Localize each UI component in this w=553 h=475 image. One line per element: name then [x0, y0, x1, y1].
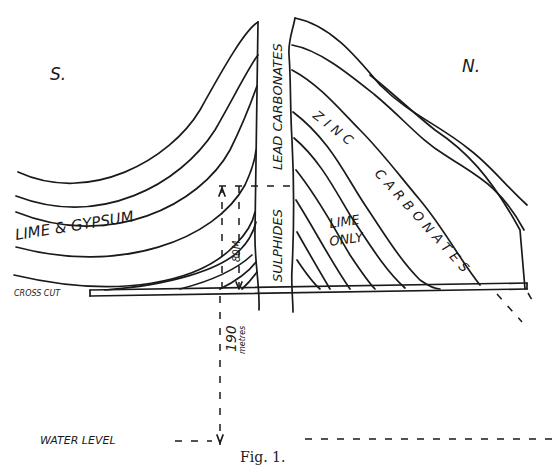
depth-unit-label: metres [238, 326, 247, 354]
right-strata-lines [292, 18, 527, 289]
depth-value-label: 190 [223, 325, 239, 352]
left-strata-lines [14, 22, 258, 290]
zinc-label: ZINC [309, 107, 360, 151]
geological-cross-section-figure: S. N. CROSS CUT [0, 0, 553, 475]
lime-gypsum-label: LIME & GYPSUM [14, 207, 135, 244]
height-dimension-label: 80M [231, 240, 242, 262]
continuation-dashes [497, 293, 535, 322]
south-label: S. [50, 64, 66, 84]
lime-only-label-line1: LIME [328, 212, 361, 231]
water-level-label: WATER LEVEL [40, 434, 116, 447]
carbonates-label: CARBONATES [372, 166, 476, 279]
sulphides-label: SULPHIDES [270, 209, 285, 282]
lime-only-label-line2: ONLY [328, 229, 365, 249]
lead-carbonates-label: LEAD CARBONATES [270, 43, 285, 170]
cross-cut-label: CROSS CUT [14, 289, 61, 298]
north-label: N. [462, 56, 480, 76]
water-level-line [175, 439, 553, 441]
cross-cut-tunnel [90, 283, 527, 296]
figure-caption: Fig. 1. [240, 449, 285, 465]
